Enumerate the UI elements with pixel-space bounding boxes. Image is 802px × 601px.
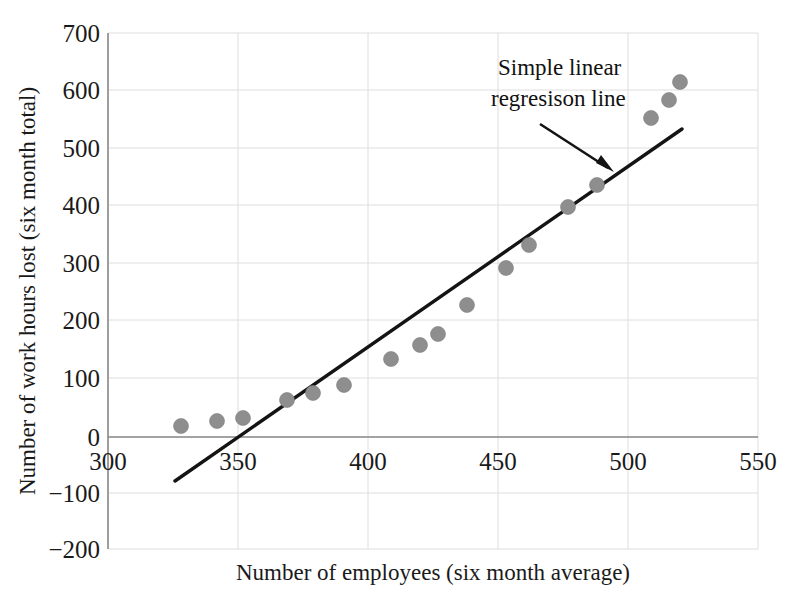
data-point bbox=[662, 93, 677, 108]
caption-svg bbox=[0, 585, 802, 601]
figure-caption-partial bbox=[0, 585, 802, 601]
x-tick-350: 350 bbox=[219, 448, 257, 475]
y-tick-400: 400 bbox=[63, 192, 101, 219]
data-point bbox=[561, 200, 576, 215]
data-point bbox=[522, 238, 537, 253]
data-point bbox=[306, 386, 321, 401]
data-point bbox=[413, 338, 428, 353]
data-point bbox=[337, 378, 352, 393]
callout-line-2: regresison line bbox=[491, 86, 626, 111]
y-tick-minus100: −100 bbox=[48, 480, 100, 507]
callout-line-1: Simple linear bbox=[498, 55, 622, 80]
y-tick-labels: 700 600 500 400 300 200 100 0 −100 −200 bbox=[48, 20, 100, 563]
x-tick-450: 450 bbox=[479, 448, 517, 475]
x-tick-300: 300 bbox=[89, 448, 127, 475]
y-tick-600: 600 bbox=[63, 77, 101, 104]
scatter-chart: 700 600 500 400 300 200 100 0 −100 −200 … bbox=[0, 0, 802, 601]
x-axis-title: Number of employees (six month average) bbox=[236, 560, 630, 585]
y-tick-300: 300 bbox=[63, 250, 101, 277]
y-tick-100: 100 bbox=[63, 365, 101, 392]
data-point bbox=[673, 75, 688, 90]
data-point bbox=[280, 393, 295, 408]
x-tick-400: 400 bbox=[349, 448, 387, 475]
vertical-gridlines bbox=[108, 33, 758, 549]
x-tick-550: 550 bbox=[739, 448, 777, 475]
x-tick-500: 500 bbox=[609, 448, 647, 475]
y-tick-200: 200 bbox=[63, 307, 101, 334]
data-point bbox=[431, 327, 446, 342]
regression-line-callout: Simple linear regresison line bbox=[491, 55, 626, 172]
horizontal-gridlines bbox=[108, 33, 758, 549]
y-axis-title: Number of work hours lost (six month tot… bbox=[15, 87, 40, 495]
data-point bbox=[590, 178, 605, 193]
callout-arrow-head bbox=[596, 155, 614, 172]
data-point bbox=[236, 411, 251, 426]
y-tick-minus200: −200 bbox=[48, 536, 100, 563]
data-point bbox=[499, 261, 514, 276]
figure-container: 700 600 500 400 300 200 100 0 −100 −200 … bbox=[0, 0, 802, 601]
data-point bbox=[644, 111, 659, 126]
data-points bbox=[174, 75, 688, 434]
y-tick-500: 500 bbox=[63, 135, 101, 162]
data-point bbox=[384, 352, 399, 367]
regression-line bbox=[175, 129, 682, 481]
data-point bbox=[460, 298, 475, 313]
y-tick-0: 0 bbox=[88, 424, 101, 451]
y-tick-700: 700 bbox=[63, 20, 101, 47]
data-point bbox=[174, 419, 189, 434]
data-point bbox=[210, 414, 225, 429]
